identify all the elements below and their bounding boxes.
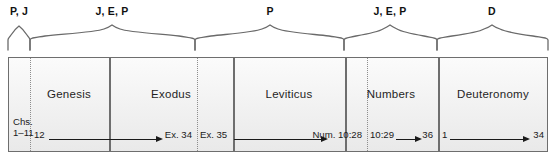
book-label-leviticus: Leviticus <box>266 88 313 100</box>
bracket-curve-3 <box>344 25 437 50</box>
ref-exodus-34-end: Ex. 34 <box>165 130 192 141</box>
bracket-curve-2 <box>195 25 344 50</box>
ref-genesis-1-11: Chs. 1–11 <box>13 117 34 138</box>
ref-deuteronomy-end: 34 <box>533 130 544 141</box>
book-label-deuteronomy: Deuteronomy <box>457 88 529 100</box>
ref-exodus-35-start: Ex. 35 <box>200 130 227 141</box>
ref-genesis-start: 12 <box>34 130 45 141</box>
arrow-head-icon <box>415 136 422 142</box>
pentateuch-source-chart: P, J J, E, P P J, E, P D Genesis <box>0 0 558 160</box>
arrow-numbers <box>396 136 422 143</box>
book-label-exodus: Exodus <box>151 88 191 100</box>
ref-numbers-1029-start: 10:29 <box>370 130 394 141</box>
arrow-genesis-exodus <box>49 136 163 143</box>
arrow-shaft <box>49 139 157 140</box>
arrow-head-icon <box>523 136 530 142</box>
ref-deuteronomy-start: 1 <box>442 130 447 141</box>
ref-genesis-1-11-line2: 1–11 <box>13 128 34 139</box>
bracket-curve-0 <box>8 26 30 50</box>
chapter-reference-row: Chs. 1–11 12 Ex. 34 Ex. 35 Num. 10:28 10… <box>0 123 558 153</box>
book-label-genesis: Genesis <box>47 88 91 100</box>
arrow-head-icon <box>156 136 163 142</box>
bracket-group <box>0 0 558 57</box>
ref-numbers-1028-end: Num. 10:28 <box>312 130 362 141</box>
bracket-curve-4 <box>437 25 548 50</box>
ref-numbers-36-end: 36 <box>422 130 433 141</box>
arrow-shaft <box>396 139 416 140</box>
arrow-shaft <box>450 139 524 140</box>
arrow-shaft <box>234 139 322 140</box>
book-label-numbers: Numbers <box>367 88 415 100</box>
bracket-curve-1 <box>30 25 195 50</box>
arrow-deuteronomy <box>450 136 530 143</box>
